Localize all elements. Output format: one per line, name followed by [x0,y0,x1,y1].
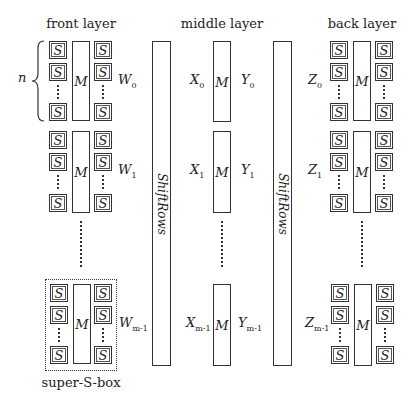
vertical-ellipsis [57,175,61,189]
sbox: S [330,41,348,59]
sbox: S [94,194,112,212]
mix-box: M [353,41,371,121]
sbox: S [375,194,393,212]
mix-box: M [72,131,90,213]
vertical-ellipsis [102,175,106,189]
middle-layer-title: middle layer [181,16,263,31]
sbox: S [330,103,348,121]
shiftrows-bar-1: ShiftRows [152,41,171,366]
z-label-1: Z1 [308,162,322,180]
vertical-ellipsis [80,221,84,267]
sbox: S [375,131,393,149]
back-layer-title: back layer [328,16,397,31]
mix-box: M [73,284,91,364]
sbox: S [330,194,348,212]
sbox: S [375,63,393,81]
brace-icon [30,40,46,122]
sbox: S [375,153,393,171]
vertical-ellipsis [102,328,106,342]
w-label-0: W0 [118,72,136,90]
sbox: S [330,153,348,171]
x-label-m-1: Xm-1 [186,315,211,333]
x-label-1: X1 [190,162,204,180]
vertical-ellipsis [339,328,343,342]
sbox: S [49,41,67,59]
sbox: S [94,63,112,81]
mix-box: M [213,131,231,213]
sbox: S [94,153,112,171]
sbox: S [376,346,394,364]
shiftrows-bar-2: ShiftRows [273,41,292,366]
sbox: S [50,306,68,324]
sbox: S [49,153,67,171]
sbox: S [375,41,393,59]
mix-box: M [72,41,90,121]
vertical-ellipsis [57,85,61,99]
sbox: S [330,63,348,81]
vertical-ellipsis [338,85,342,99]
sbox: S [330,131,348,149]
sbox: S [376,306,394,324]
sbox: S [331,346,349,364]
vertical-ellipsis [58,328,62,342]
sbox: S [94,284,112,302]
sbox: S [94,131,112,149]
sbox: S [94,103,112,121]
z-label-0: Z0 [308,72,322,90]
sbox: S [94,306,112,324]
n-label: n [18,70,26,85]
sbox: S [50,284,68,302]
y-label-1: Y1 [241,162,255,180]
sbox: S [331,284,349,302]
sbox: S [49,103,67,121]
vertical-ellipsis [338,175,342,189]
sbox: S [331,306,349,324]
vertical-ellipsis [221,221,225,267]
front-layer-title: front layer [46,16,116,31]
sbox: S [49,194,67,212]
sbox: S [49,63,67,81]
y-label-0: Y0 [241,72,255,90]
mix-box: M [213,41,231,122]
sbox: S [376,284,394,302]
sbox: S [94,41,112,59]
vertical-ellipsis [384,328,388,342]
sbox: S [375,103,393,121]
sbox: S [94,346,112,364]
super-sbox-caption: super-S-box [42,375,121,390]
sbox: S [49,131,67,149]
w-label-m-1: Wm-1 [119,315,148,333]
mix-box: M [354,284,372,366]
vertical-ellipsis [383,85,387,99]
x-label-0: X0 [190,72,204,90]
mix-box: M [353,131,371,213]
w-label-1: W1 [118,162,136,180]
mix-box: M [213,284,231,366]
y-label-m-1: Ym-1 [238,315,262,333]
vertical-ellipsis [102,85,106,99]
z-label-m-1: Zm-1 [305,315,329,333]
vertical-ellipsis [361,221,365,267]
sbox: S [50,346,68,364]
vertical-ellipsis [383,175,387,189]
